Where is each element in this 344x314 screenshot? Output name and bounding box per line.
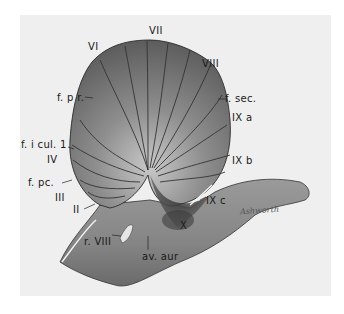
label-ix-b: IX b — [232, 156, 253, 166]
label-fissura-secunda: f. sec. — [225, 94, 256, 104]
label-r-viii: r. VIII — [84, 237, 111, 247]
label-viii: VIII — [202, 59, 219, 69]
label-iv: IV — [47, 155, 57, 165]
label-ii: II — [73, 205, 80, 215]
label-ix-a: IX a — [232, 113, 252, 123]
label-fissura-prima: f. p r. — [57, 93, 84, 103]
label-vi: VI — [88, 42, 98, 52]
label-vii: VII — [149, 26, 163, 36]
label-fissura-precentralis: f. pc. — [28, 178, 54, 188]
label-x: X — [180, 221, 187, 231]
label-ix-c: IX c — [206, 196, 226, 206]
label-fissura-intraculminata: f. i cul. 1 — [21, 140, 67, 150]
label-iii: III — [55, 193, 65, 203]
label-av-aur: av. aur — [142, 252, 178, 262]
